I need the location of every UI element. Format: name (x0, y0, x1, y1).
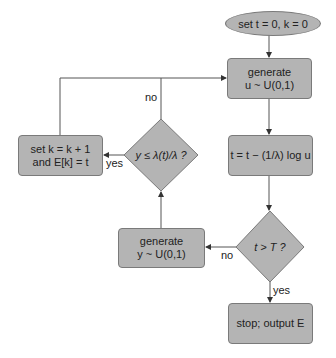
stop-node: stop; output E (228, 303, 313, 344)
edge-label-check-t-yes: yes (273, 284, 290, 296)
generate-y-node: generate y ~ U(0,1) (118, 228, 205, 268)
edge-label-check-y-yes: yes (106, 157, 123, 169)
update-t-node: t = t − (1/λ) log u (228, 135, 313, 176)
set-k-node: set k = k + 1 and E[k] = t (18, 135, 103, 176)
generate-u-line2: u ~ U(0,1) (245, 79, 294, 92)
start-node: set t = 0, k = 0 (225, 11, 321, 36)
update-t-label: t = t − (1/λ) log u (230, 149, 310, 162)
check-y-label: y ≤ λ(t)/λ ? (124, 145, 198, 165)
generate-y-line1: generate (140, 235, 183, 248)
set-k-line1: set k = k + 1 (31, 143, 91, 156)
set-k-line2: and E[k] = t (33, 156, 89, 169)
generate-u-node: generate u ~ U(0,1) (227, 58, 312, 99)
generate-u-line1: generate (248, 66, 291, 79)
edge-label-check-y-no: no (145, 91, 157, 103)
edge-label-check-t-no: no (221, 249, 233, 261)
stop-label: stop; output E (237, 317, 305, 330)
generate-y-line2: y ~ U(0,1) (137, 248, 186, 261)
start-label: set t = 0, k = 0 (238, 18, 308, 30)
check-t-label: t > T ? (236, 237, 304, 257)
